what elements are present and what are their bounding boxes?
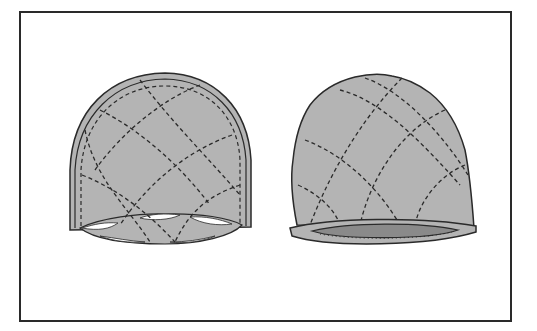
cap-finished-view	[290, 74, 476, 244]
caps-illustration	[0, 0, 537, 331]
cap-inside-view	[70, 73, 251, 244]
